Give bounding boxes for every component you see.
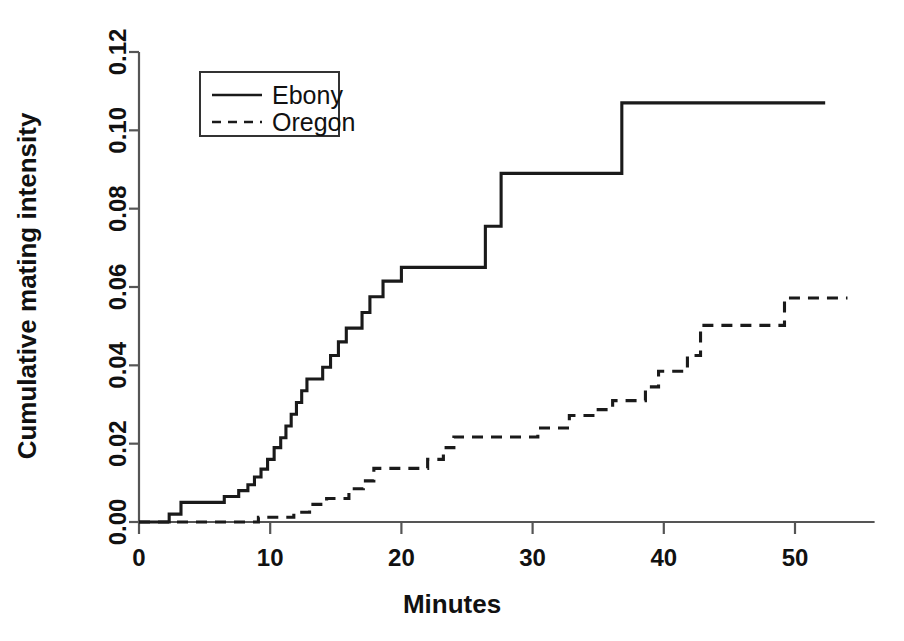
x-tick-label-2: 20 bbox=[388, 544, 415, 571]
x-tick-label-3: 30 bbox=[519, 544, 546, 571]
x-tick-label-5: 50 bbox=[782, 544, 809, 571]
y-tick-label-2: 0.04 bbox=[104, 341, 131, 388]
y-axis-ticks: 0.000.020.040.060.080.100.12 bbox=[104, 29, 139, 546]
x-tick-label-4: 40 bbox=[650, 544, 677, 571]
x-tick-label-1: 10 bbox=[257, 544, 284, 571]
legend-label-oregon: Oregon bbox=[272, 108, 355, 136]
y-tick-label-0: 0.00 bbox=[104, 499, 131, 546]
legend-label-ebony: Ebony bbox=[272, 81, 343, 109]
series-ebony bbox=[139, 103, 825, 522]
y-tick-label-1: 0.02 bbox=[104, 420, 131, 467]
y-tick-label-3: 0.06 bbox=[104, 264, 131, 311]
y-axis-title: Cumulative mating intensity bbox=[12, 112, 42, 459]
x-tick-label-0: 0 bbox=[132, 544, 145, 571]
x-axis-ticks: 01020304050 bbox=[132, 522, 808, 571]
series-oregon bbox=[139, 298, 847, 522]
x-axis-title: Minutes bbox=[403, 589, 501, 619]
step-chart: 0.000.020.040.060.080.100.12 01020304050… bbox=[0, 0, 904, 641]
chart-page: 0.000.020.040.060.080.100.12 01020304050… bbox=[0, 0, 904, 641]
y-tick-label-6: 0.12 bbox=[104, 29, 131, 76]
x-axis: 01020304050 bbox=[132, 522, 874, 571]
y-tick-label-5: 0.10 bbox=[104, 107, 131, 154]
chart-legend: Ebony Oregon bbox=[200, 72, 355, 136]
series-group bbox=[139, 103, 847, 522]
y-axis: 0.000.020.040.060.080.100.12 bbox=[104, 29, 139, 546]
y-tick-label-4: 0.08 bbox=[104, 185, 131, 232]
